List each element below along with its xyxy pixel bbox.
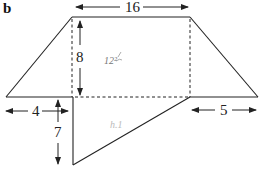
dashed-construction-lines [72, 19, 190, 97]
label-triangle-depth: 7 [53, 125, 63, 140]
label-top-width: 16 [124, 0, 141, 15]
panel-label: b [3, 0, 11, 17]
trapezoid-diagram: b 16 8 4 7 5 12² h.1 [0, 0, 262, 169]
handwritten-area-note: 12² [104, 56, 117, 66]
label-right-offset: 5 [219, 103, 229, 118]
triangle-hypotenuse [73, 97, 190, 165]
trapezoid-outline [6, 17, 258, 97]
lower-triangle [73, 97, 190, 165]
label-left-offset: 4 [31, 104, 41, 119]
diagram-canvas [0, 0, 262, 169]
right-slant-edge [190, 17, 258, 97]
handwritten-faint-note: h.1 [110, 120, 123, 130]
label-height: 8 [75, 50, 85, 65]
dimension-arrows [6, 7, 256, 164]
left-slant-edge [6, 17, 72, 97]
